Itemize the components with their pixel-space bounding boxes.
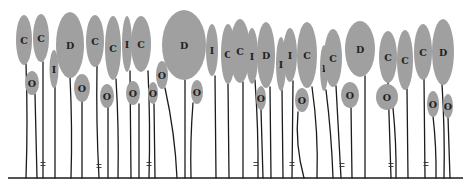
cell-label: C [401,55,409,66]
cell-c: C [297,22,317,88]
cell-o: O [256,86,266,110]
cell-label: O [149,88,157,99]
stem [424,79,425,178]
cell-d: D [432,19,454,85]
cell-label: I [279,59,284,70]
cell-label: O [298,95,306,106]
stem [154,104,155,178]
cell-o: O [191,80,203,104]
cell-o: O [148,82,158,104]
stem [228,84,229,178]
cell-label: C [20,35,28,46]
cell-c: C [379,31,397,83]
cell-label: I [125,39,130,50]
cell-c: C [324,29,342,87]
cell-label: O [129,88,137,99]
cell-c: C [397,30,413,90]
cell-label: O [444,101,452,112]
cell-o: O [341,82,359,108]
stem [312,87,317,178]
cell-label: C [137,39,145,50]
stem [326,90,333,178]
cell-c: C [414,24,432,80]
cell-c: C [105,16,121,80]
stem [292,81,293,178]
cell-o: O [376,84,398,110]
cell-label: D [66,40,74,51]
stem [282,90,283,178]
stem [407,89,408,178]
stem [270,87,271,178]
cell-label: D [180,40,188,51]
cell-label: O [103,91,111,102]
stem [215,76,216,178]
cell-c: C [33,14,49,62]
stem [116,79,118,178]
cell-label: D [262,50,270,61]
stem [433,116,436,178]
cells-layer: COCIDOCOCIOCOODOICCIODIIOCICODCOCCODO [16,10,454,118]
stem [393,108,396,178]
stem [165,88,177,178]
stem [70,77,72,178]
cell-label: I [288,50,293,61]
stem [297,112,304,178]
cell-label: O [28,78,36,89]
cell-i: I [283,28,297,82]
cell-label: O [346,90,354,101]
cell-d: D [257,22,275,88]
cell-label: O [158,70,166,81]
cell-o: O [74,74,90,102]
cell-label: C [303,50,311,61]
cell-label: O [257,93,265,104]
stem [261,109,263,178]
cell-label: C [236,46,244,57]
cell-c: C [131,16,151,72]
cell-label: D [356,44,364,55]
stem [448,117,450,178]
cell-label: C [109,43,117,54]
stem [336,86,341,178]
cell-c: C [16,15,32,65]
cell-label: I [250,51,255,62]
cell-stalk-diagram: COCIDOCOCIOCOODOICCIODIIOCICODCOCCODO [0,0,473,190]
cell-i: I [206,24,218,76]
stem [351,107,352,178]
cell-label: I [52,64,57,75]
cell-label: O [193,87,201,98]
cell-o: O [427,91,439,117]
stem [442,84,444,178]
cell-label: I [210,45,215,56]
cell-label: C [37,33,45,44]
cell-d: D [345,21,375,77]
cell-o: O [443,94,453,118]
cell-d: D [56,12,84,78]
cell-d: D [162,10,206,80]
cell-label: O [429,99,437,110]
cell-c: C [86,15,104,67]
stem [35,94,37,178]
cell-o: O [295,88,309,112]
cell-label: C [384,52,392,63]
cell-label: C [329,53,337,64]
cell-i: I [246,28,258,84]
cell-o: O [126,81,140,105]
cell-o: O [100,84,114,108]
cell-i: I [122,16,132,72]
cell-label: O [78,83,86,94]
cell-o: O [25,71,39,95]
stem [191,103,193,178]
cell-label: C [419,47,427,58]
cell-label: C [91,36,99,47]
stem [97,66,99,178]
cell-label: D [439,47,447,58]
cell-label: O [383,92,391,103]
